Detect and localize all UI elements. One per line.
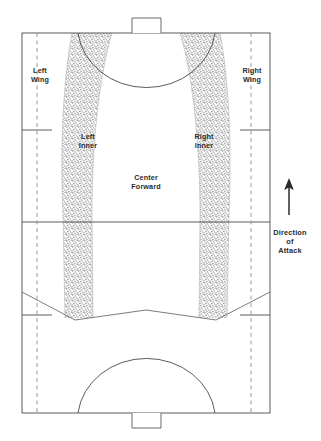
label-right-inner-line1: Right xyxy=(194,132,214,141)
label-center-forward-line1: Center xyxy=(134,173,158,182)
label-left-wing-line2: Wing xyxy=(31,75,49,84)
label-left-wing-line1: Left xyxy=(33,66,47,75)
label-right-wing-line1: Right xyxy=(242,66,262,75)
defensive-zone-line xyxy=(22,292,270,320)
label-left-inner-line1: Left xyxy=(81,132,95,141)
label-center-forward-line2: Forward xyxy=(131,182,160,191)
field-boundary xyxy=(22,33,270,413)
label-right-inner-line2: Inner xyxy=(195,141,213,150)
label-direction-line1: Direction xyxy=(273,228,307,237)
label-direction-line2: of xyxy=(286,237,294,246)
label-direction-line3: Attack xyxy=(278,246,302,255)
goal-bottom xyxy=(132,413,161,428)
label-left-inner-line2: Inner xyxy=(79,141,97,150)
goal-top xyxy=(132,18,161,33)
label-right-wing-line2: Wing xyxy=(243,75,261,84)
field-diagram-canvas: Left Wing Right Wing Left Inner Right In… xyxy=(0,0,321,441)
field-diagram: Left Wing Right Wing Left Inner Right In… xyxy=(0,0,321,441)
striking-circle-bottom xyxy=(78,358,215,413)
left-inner-lane xyxy=(62,33,112,318)
up-arrow-icon xyxy=(284,178,294,215)
